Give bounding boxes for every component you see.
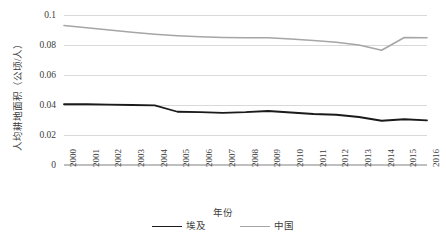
chart-container: 人均耕地面积（公顷/人） 00.020.040.060.080.1 200020…: [0, 0, 446, 243]
legend-swatch-icon: [152, 226, 182, 227]
legend-label: 中国: [274, 222, 294, 232]
x-tick-label: 2010: [295, 149, 305, 167]
legend-item[interactable]: 中国: [240, 222, 294, 232]
x-tick-label: 2002: [113, 149, 123, 167]
x-tick-label: 2003: [136, 149, 146, 167]
x-tick-label: 2011: [318, 149, 328, 167]
x-tick-label: 2006: [204, 149, 214, 167]
series-lines: [64, 15, 427, 165]
x-tick-label: 2004: [159, 149, 169, 167]
x-tick-label: 2015: [408, 149, 418, 167]
x-axis-title: 年份: [0, 205, 446, 219]
x-tick-label: 2012: [340, 149, 350, 167]
plot-area: [64, 15, 427, 165]
x-tick-label: 2007: [227, 149, 237, 167]
legend-swatch-icon: [240, 226, 270, 227]
y-axis-ticks: 00.020.040.060.080.1: [0, 0, 62, 180]
series-line-埃及: [64, 104, 427, 121]
y-tick-label: 0.06: [39, 70, 56, 80]
x-tick-label: 2008: [250, 149, 260, 167]
x-tick-label: 2000: [68, 149, 78, 167]
x-axis-ticks: 2000200120022003200420052006200720082009…: [64, 167, 427, 205]
series-line-中国: [64, 26, 427, 51]
x-tick-label: 2009: [272, 149, 282, 167]
x-tick-label: 2013: [363, 149, 373, 167]
y-tick-label: 0.1: [44, 10, 56, 20]
legend-item[interactable]: 埃及: [152, 222, 206, 232]
x-tick-label: 2005: [181, 149, 191, 167]
x-tick-label: 2001: [91, 149, 101, 167]
chart-legend: 埃及中国: [0, 222, 446, 232]
y-tick-label: 0.02: [39, 130, 56, 140]
y-tick-label: 0.04: [39, 100, 56, 110]
legend-label: 埃及: [186, 222, 206, 232]
y-tick-label: 0.08: [39, 40, 56, 50]
x-tick-label: 2014: [386, 149, 396, 167]
x-tick-label: 2016: [431, 149, 441, 167]
y-tick-label: 0: [51, 160, 56, 170]
